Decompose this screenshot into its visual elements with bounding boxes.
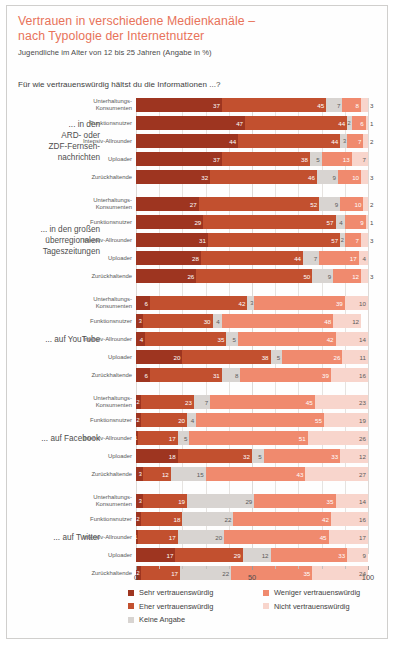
bar-row: Uploader37385137 <box>8 152 386 166</box>
legend-label: Weniger vertrauenswürdig <box>274 588 360 597</box>
bar-segment-value: 17 <box>350 255 357 262</box>
bar-segment-value: 7 <box>358 138 361 145</box>
legend-item[interactable]: Weniger vertrauenswürdig <box>263 588 360 597</box>
bar-segment-value: 12 <box>359 453 366 460</box>
bar-segment: 27 <box>305 467 368 481</box>
bar-row: Uploader203852611 <box>8 350 386 364</box>
bar-segment: 30 <box>143 314 213 328</box>
bar-segment-value: 2 <box>137 516 140 523</box>
bar-segment-value: 35 <box>327 498 334 505</box>
bar-segment-value: 22 <box>225 516 232 523</box>
legend-item[interactable]: Sehr vertrauenswürdig <box>128 588 213 597</box>
page-subtitle: Jugendliche im Alter von 12 bis 25 Jahre… <box>18 48 358 57</box>
bar-segment-value: 50 <box>303 273 310 280</box>
legend-column-1: Sehr vertrauenswürdigEher vertrauenswürd… <box>128 588 213 629</box>
axis-minor-tick <box>298 566 299 569</box>
bar-row: Intensiv-Allrounder117204517 <box>8 530 386 544</box>
bar-segment: 7 <box>345 233 361 247</box>
bar-segment: 57 <box>208 233 340 247</box>
bar-row-label: Zurückhaltende <box>8 471 132 478</box>
bar-segment: 33 <box>271 548 348 562</box>
bar-segment: 10 <box>338 170 361 184</box>
bar-segment-value: 16 <box>359 516 366 523</box>
bar-row-label: Funktionsnutzer <box>8 120 132 127</box>
bar-segment: 42 <box>238 332 335 346</box>
bar-segment: 29 <box>136 215 203 229</box>
bar-row-label: Unterhaltungs-Konsumenten <box>8 197 132 211</box>
axis-tick-label: 100 <box>362 573 374 582</box>
bar-row: Intensiv-Allrounder3157273 <box>8 233 386 247</box>
bar-segment-value: 42 <box>327 336 334 343</box>
bar-segment-value: 26 <box>334 354 341 361</box>
legend-item[interactable]: Eher vertrauenswürdig <box>128 602 213 611</box>
bar-row: Zurückhaltende63183916 <box>8 368 386 382</box>
bar-segment-value: 3 <box>139 471 142 478</box>
legend-item[interactable]: Keine Angabe <box>128 615 213 624</box>
bar-segment-value: 3 <box>370 273 373 280</box>
bar-segment-value: 2 <box>137 417 140 424</box>
bar-segment: 13 <box>322 152 352 166</box>
bar-row: Funktionsnutzer218224216 <box>8 512 386 526</box>
page-title-line2: nach Typologie der Internetnutzer <box>18 29 358 44</box>
bar-segment: 5 <box>252 449 264 463</box>
bar-segment-value: 27 <box>190 201 197 208</box>
bar-segment: 35 <box>145 332 226 346</box>
bar-segment-value: 29 <box>245 498 252 505</box>
bar-segment: 3 <box>361 269 368 283</box>
bar-row: Funktionsnutzer4744261 <box>8 116 386 130</box>
bar-segment-value: 16 <box>359 372 366 379</box>
bar-segment: 39 <box>254 296 344 310</box>
bar-segment: 9 <box>347 548 368 562</box>
bar-segment: 3 <box>136 314 143 328</box>
axis-tick-label: 50 <box>248 573 256 582</box>
stacked-bar: 43554214 <box>136 332 368 346</box>
bar-segment: 46 <box>210 170 317 184</box>
stacked-bar: 2957491 <box>136 215 368 229</box>
bar-segment: 9 <box>319 197 340 211</box>
bar-segment: 28 <box>136 251 201 265</box>
bar-segment-value: 7 <box>337 102 340 109</box>
bar-segment-value: 12 <box>352 318 359 325</box>
bar-segment-value: 33 <box>338 552 345 559</box>
bar-segment-value: 17 <box>169 534 176 541</box>
bar-segment: 7 <box>347 134 363 148</box>
bar-segment: 26 <box>308 431 368 445</box>
bar-segment-value: 10 <box>352 174 359 181</box>
bar-row-label: Unterhaltungs-Konsumenten <box>8 494 132 508</box>
bar-segment-value: 5 <box>316 156 319 163</box>
bar-row: Uploader28447174 <box>8 251 386 265</box>
bar-segment: 20 <box>136 350 182 364</box>
bar-segment: 50 <box>196 269 312 283</box>
bar-segment-value: 7 <box>205 399 208 406</box>
bar-segment-value: 10 <box>359 300 366 307</box>
stacked-bar: 22045519 <box>136 413 368 427</box>
bar-segment-value: 57 <box>327 219 334 226</box>
bar-segment-value: 19 <box>359 417 366 424</box>
bar-segment-value: 3 <box>250 300 253 307</box>
bar-segment-value: 26 <box>187 273 194 280</box>
bar-segment: 17 <box>138 530 177 544</box>
x-axis: 050100 <box>136 566 368 588</box>
bar-segment-value: 32 <box>201 174 208 181</box>
bar-segment-value: 44 <box>294 255 301 262</box>
bar-segment: 32 <box>178 449 252 463</box>
bar-segment: 8 <box>342 98 361 112</box>
bar-segment: 17 <box>329 530 368 544</box>
bar-row-label: Funktionsnutzer <box>8 417 132 424</box>
bar-segment-value: 17 <box>169 435 176 442</box>
bar-segment: 26 <box>282 350 342 364</box>
bar-segment: 38 <box>222 152 310 166</box>
bar-segment: 4 <box>136 332 145 346</box>
bar-segment-value: 57 <box>331 237 338 244</box>
bar-segment: 29 <box>187 494 254 508</box>
bar-segment: 44 <box>245 116 347 130</box>
bar-segment: 55 <box>196 413 324 427</box>
legend-item[interactable]: Nicht vertrauenswürdig <box>263 602 360 611</box>
bar-segment-value: 14 <box>359 336 366 343</box>
axis-minor-tick <box>322 566 323 569</box>
bar-segment: 23 <box>315 395 368 409</box>
bar-segment: 31 <box>150 368 222 382</box>
bar-segment-value: 27 <box>359 471 366 478</box>
bar-segment-value: 4 <box>191 417 194 424</box>
bar-row-label: Uploader <box>8 552 132 559</box>
